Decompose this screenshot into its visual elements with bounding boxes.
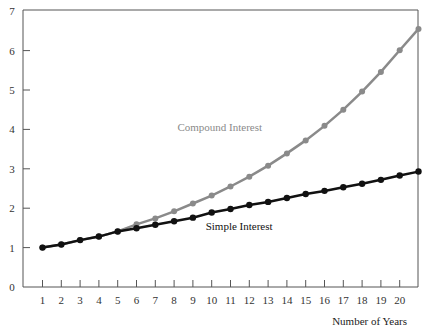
x-tick-label: 13 <box>263 294 275 306</box>
data-point <box>378 69 384 75</box>
y-tick-label: 3 <box>9 163 15 175</box>
x-tick-label: 18 <box>357 294 369 306</box>
data-point <box>209 193 215 199</box>
x-tick-label: 3 <box>77 294 83 306</box>
x-tick-label: 2 <box>59 294 65 306</box>
data-point <box>227 206 233 212</box>
data-point <box>416 26 422 32</box>
data-point <box>415 168 421 174</box>
data-point <box>39 244 45 250</box>
x-tick-label: 5 <box>115 294 121 306</box>
x-tick-label: 16 <box>319 294 331 306</box>
x-tick-label: 4 <box>96 294 102 306</box>
x-tick-label: 15 <box>300 294 312 306</box>
data-point <box>359 181 365 187</box>
y-tick-label: 5 <box>9 84 15 96</box>
x-tick-label: 17 <box>338 294 350 306</box>
compound-interest-line <box>43 29 419 248</box>
data-point <box>171 208 177 214</box>
data-point <box>321 188 327 194</box>
x-tick-label: 10 <box>206 294 218 306</box>
data-point <box>284 150 290 156</box>
data-point <box>340 184 346 190</box>
data-point <box>152 222 158 228</box>
data-point <box>115 228 121 234</box>
data-point <box>209 209 215 215</box>
data-point <box>284 195 290 201</box>
data-point <box>303 137 309 143</box>
x-tick-label: 9 <box>190 294 196 306</box>
series-annotation: Simple Interest <box>206 220 273 232</box>
x-tick-label: 6 <box>134 294 140 306</box>
y-tick-label: 2 <box>9 202 15 214</box>
data-point <box>246 174 252 180</box>
x-tick-label: 1 <box>40 294 46 306</box>
data-point <box>359 89 365 95</box>
y-tick-label: 6 <box>9 45 15 57</box>
data-point <box>190 200 196 206</box>
data-point <box>397 172 403 178</box>
data-point <box>171 218 177 224</box>
data-point <box>228 184 234 190</box>
series-lines <box>39 26 421 251</box>
data-point <box>58 241 64 247</box>
data-point <box>246 202 252 208</box>
x-tick-label: 20 <box>394 294 406 306</box>
y-tick-label: 1 <box>9 242 15 254</box>
y-axis-ticks: 01234567 <box>9 5 30 293</box>
x-tick-label: 19 <box>375 294 387 306</box>
data-point <box>152 215 158 221</box>
x-axis-ticks: 1234567891011121314151617181920 <box>40 280 406 306</box>
data-point <box>397 47 403 53</box>
plot-frame <box>23 10 418 287</box>
y-tick-label: 0 <box>9 281 15 293</box>
x-tick-label: 11 <box>225 294 236 306</box>
data-point <box>190 214 196 220</box>
data-point <box>265 163 271 169</box>
data-point <box>303 191 309 197</box>
x-tick-label: 12 <box>244 294 255 306</box>
y-tick-label: 4 <box>9 123 15 135</box>
data-point <box>265 199 271 205</box>
y-tick-label: 7 <box>9 5 15 17</box>
interest-chart: 01234567 1234567891011121314151617181920… <box>0 0 425 334</box>
data-point <box>133 225 139 231</box>
x-tick-label: 8 <box>171 294 177 306</box>
x-tick-label: 14 <box>281 294 293 306</box>
data-point <box>77 237 83 243</box>
series-annotation: Compound Interest <box>177 121 262 133</box>
x-tick-label: 7 <box>153 294 159 306</box>
data-point <box>340 107 346 113</box>
data-point <box>322 123 328 129</box>
data-point <box>96 233 102 239</box>
x-axis-label: Number of Years <box>332 315 407 327</box>
data-point <box>378 177 384 183</box>
